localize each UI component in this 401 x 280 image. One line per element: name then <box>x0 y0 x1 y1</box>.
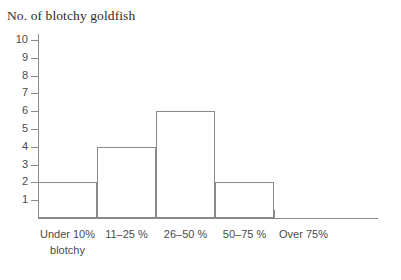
y-axis-tick-label-text: 10 <box>6 34 28 45</box>
x-axis-tick <box>274 210 275 219</box>
y-axis-tick <box>31 129 39 130</box>
y-axis-tick-label: 10 <box>0 34 28 46</box>
y-axis-tick-label: 9 <box>0 52 28 64</box>
y-axis-tick-label: 2 <box>0 176 28 188</box>
plot-area: 10987654321 Under 10%blotchy11–25 %26–50… <box>0 0 401 280</box>
y-axis-tick-label-text: 4 <box>6 141 28 152</box>
y-axis-tick-label-text: 6 <box>6 105 28 116</box>
y-axis-tick-label-text: 5 <box>6 123 28 134</box>
x-axis-line <box>38 218 378 219</box>
y-axis-tick-label-text: 8 <box>6 70 28 81</box>
y-axis-tick-label: 6 <box>0 105 28 117</box>
y-axis-tick-label: 1 <box>0 194 28 206</box>
x-axis-category-label-line1: 50–75 % <box>223 228 266 240</box>
y-axis-tick-label: 4 <box>0 141 28 153</box>
x-axis-category-label-line2: blotchy <box>26 242 109 258</box>
y-axis-tick-label: 3 <box>0 159 28 171</box>
x-axis-category-label-line1: Over 75% <box>279 228 328 240</box>
y-axis-tick-label: 5 <box>0 123 28 135</box>
y-axis-tick <box>31 58 39 59</box>
x-axis-category-label-line1: 26–50 % <box>164 228 207 240</box>
y-axis-tick-label-text: 3 <box>6 159 28 170</box>
x-axis-category-label: Over 75% <box>262 226 345 242</box>
y-axis-tick <box>31 76 39 77</box>
y-axis-tick-label-text: 2 <box>6 176 28 187</box>
bar <box>156 111 215 218</box>
y-axis-tick-label-text: 7 <box>6 87 28 98</box>
bar <box>38 182 97 218</box>
y-axis-tick-label: 7 <box>0 87 28 99</box>
bar <box>215 182 274 218</box>
bar <box>97 147 156 218</box>
y-axis-tick <box>31 93 39 94</box>
y-axis-tick-label-text: 1 <box>6 194 28 205</box>
chart-figure: No. of blotchy goldfish 10987654321 Unde… <box>0 0 401 280</box>
x-axis-category-label-line1: 11–25 % <box>105 228 148 240</box>
y-axis-tick-label: 8 <box>0 70 28 82</box>
y-axis-tick <box>31 111 39 112</box>
y-axis-tick <box>31 147 39 148</box>
y-axis-tick-label-text: 9 <box>6 52 28 63</box>
y-axis-tick <box>31 40 39 41</box>
y-axis-tick <box>31 165 39 166</box>
